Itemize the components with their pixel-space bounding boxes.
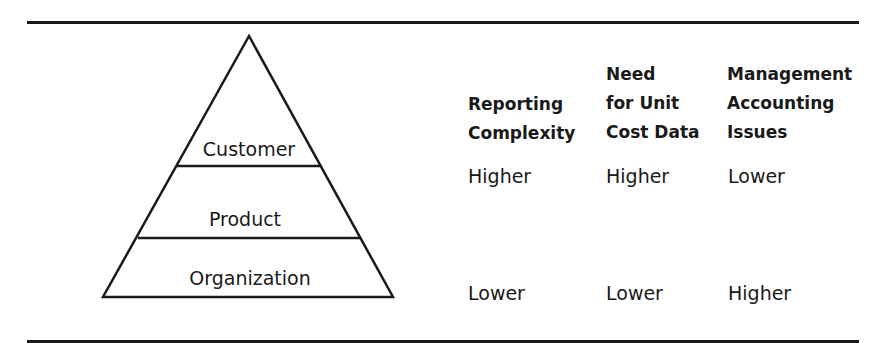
unit-cost-data-bottom-value: Lower [606, 282, 663, 304]
header-line: Issues [727, 118, 852, 147]
column-header-reporting-complexity: Reporting Complexity [468, 90, 575, 148]
pyramid-level-organization: Organization [189, 267, 310, 289]
reporting-complexity-top-value: Higher [468, 165, 531, 187]
header-line: Complexity [468, 119, 575, 148]
unit-cost-data-top-value: Higher [606, 165, 669, 187]
column-header-need-for-unit-cost-data: Need for Unit Cost Data [606, 60, 700, 147]
header-line: Reporting [468, 90, 575, 119]
header-line: Cost Data [606, 118, 700, 147]
pyramid-level-customer: Customer [203, 138, 295, 160]
header-line: Management [727, 60, 852, 89]
header-line: for Unit [606, 89, 700, 118]
column-header-management-accounting-issues: Management Accounting Issues [727, 60, 852, 147]
header-line: Accounting [727, 89, 852, 118]
pyramid-level-product: Product [209, 208, 281, 230]
header-line: Need [606, 60, 700, 89]
management-issues-bottom-value: Higher [728, 282, 791, 304]
reporting-complexity-bottom-value: Lower [468, 282, 525, 304]
management-issues-top-value: Lower [728, 165, 785, 187]
